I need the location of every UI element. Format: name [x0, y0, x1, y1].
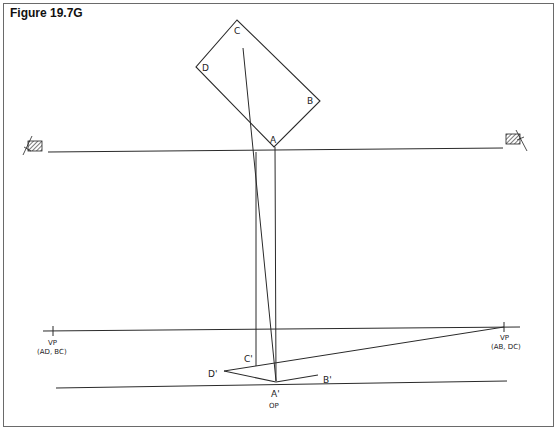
plan-label-B: B — [307, 96, 313, 106]
plan-label-A: A — [270, 135, 277, 145]
persp-label-C: C' — [244, 354, 253, 364]
vp-right-label: VP — [500, 334, 509, 342]
plan-rectangle — [196, 20, 320, 147]
persp-label-D: D' — [208, 369, 217, 379]
horizon-line — [43, 327, 520, 331]
op-label: OP — [269, 402, 279, 410]
plan-label-C: C — [234, 26, 240, 36]
line-A-to-B — [276, 375, 318, 382]
persp-label-A: A' — [271, 389, 280, 399]
ground-line — [56, 381, 507, 388]
projector-from-A — [275, 147, 276, 381]
vp-right-sub: (AB, DC) — [491, 343, 521, 351]
wall-symbol-left-icon — [23, 136, 42, 155]
line-D-to-A — [224, 371, 276, 382]
perspective-drawing: C D B A C' D' B' A' OP VP (AD, BC) VP (A… — [0, 0, 558, 431]
line-D-to-VP-right — [224, 327, 504, 371]
vp-left-sub: (AD, BC) — [37, 348, 67, 356]
persp-label-B: B' — [323, 375, 332, 385]
projector-from-C — [243, 48, 276, 381]
vp-left-label: VP — [48, 339, 57, 347]
plan-label-D: D — [202, 63, 209, 73]
wall-symbol-right-icon — [506, 130, 527, 151]
